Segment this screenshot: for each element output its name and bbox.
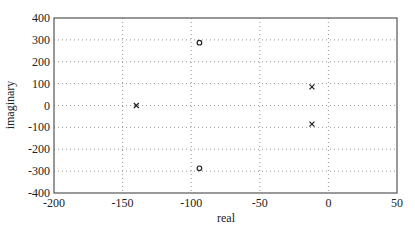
x-axis-label: real — [217, 211, 236, 225]
y-tick-label: -200 — [28, 142, 50, 156]
y-tick-label: -400 — [28, 186, 50, 200]
pole-zero-plot: -200-150-100-50050 4003002001000-100-200… — [0, 0, 415, 229]
data-markers — [134, 40, 315, 170]
y-axis-label: imaginary — [3, 81, 17, 130]
zero-marker-o-icon — [197, 166, 202, 171]
x-tick-label: 50 — [391, 196, 403, 210]
x-tick-label: -150 — [112, 196, 134, 210]
y-tick-label: 400 — [32, 11, 50, 25]
x-tick-label: 0 — [325, 196, 331, 210]
grid-lines — [54, 18, 397, 193]
pole-marker-x-icon — [309, 122, 314, 127]
x-axis-ticks: -200-150-100-50050 — [43, 196, 403, 210]
zero-marker-o-icon — [197, 40, 202, 45]
y-tick-label: -100 — [28, 120, 50, 134]
y-tick-label: 300 — [32, 33, 50, 47]
y-tick-label: 100 — [32, 77, 50, 91]
x-tick-label: -100 — [180, 196, 202, 210]
y-tick-label: 0 — [44, 99, 50, 113]
y-axis-ticks: 4003002001000-100-200-300-400 — [28, 11, 50, 200]
axes-frame — [54, 18, 397, 193]
pole-marker-x-icon — [309, 84, 314, 89]
y-tick-label: 200 — [32, 55, 50, 69]
y-tick-label: -300 — [28, 164, 50, 178]
x-tick-label: -50 — [252, 196, 268, 210]
